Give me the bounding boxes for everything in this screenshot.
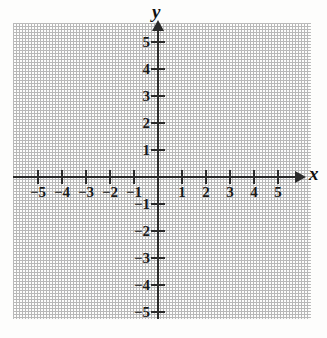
grid-line-horizontal bbox=[13, 131, 310, 132]
grid-line-vertical bbox=[67, 23, 68, 319]
y-axis-tick bbox=[151, 122, 165, 124]
y-axis-tick bbox=[151, 230, 165, 232]
grid-line-vertical bbox=[256, 23, 257, 319]
x-axis-tick bbox=[205, 170, 207, 184]
x-axis-tick-label: 4 bbox=[241, 185, 267, 200]
grid-line-horizontal bbox=[13, 239, 310, 240]
y-axis-tick-label: −1 bbox=[124, 197, 150, 212]
x-axis-tick-label: 2 bbox=[193, 185, 219, 200]
y-axis-tick-label: 4 bbox=[124, 62, 150, 77]
grid-line-vertical bbox=[175, 23, 176, 319]
y-axis-tick bbox=[151, 311, 165, 313]
y-axis-tick bbox=[151, 284, 165, 286]
x-axis-tick bbox=[229, 170, 231, 184]
x-axis-tick-label: −5 bbox=[25, 185, 51, 200]
y-axis-tick bbox=[151, 41, 165, 43]
y-axis-tick-label: 1 bbox=[124, 143, 150, 158]
y-axis-label: y bbox=[152, 2, 160, 21]
grid-line-horizontal bbox=[13, 266, 310, 267]
grid-line-vertical bbox=[40, 23, 41, 319]
x-axis-tick-label: −2 bbox=[97, 185, 123, 200]
x-axis-tick bbox=[61, 170, 63, 184]
x-axis-tick bbox=[253, 170, 255, 184]
grid-line-horizontal bbox=[13, 104, 310, 105]
y-axis-tick bbox=[151, 149, 165, 151]
y-axis-tick-label: −4 bbox=[124, 278, 150, 293]
grid-line-vertical bbox=[202, 23, 203, 319]
x-axis-tick bbox=[277, 170, 279, 184]
y-axis-tick-label: −2 bbox=[124, 224, 150, 239]
y-axis-tick bbox=[151, 68, 165, 70]
y-axis-tick-label: 2 bbox=[124, 116, 150, 131]
grid-line-horizontal bbox=[13, 293, 310, 294]
grid-line-horizontal bbox=[13, 158, 310, 159]
grid-line-horizontal bbox=[13, 50, 310, 51]
x-axis-tick bbox=[181, 170, 183, 184]
x-axis-tick-label: 3 bbox=[217, 185, 243, 200]
x-axis-label: x bbox=[309, 164, 319, 183]
x-axis-tick bbox=[85, 170, 87, 184]
x-axis-tick-label: −4 bbox=[49, 185, 75, 200]
x-axis-tick bbox=[109, 170, 111, 184]
x-axis-tick-label: −3 bbox=[73, 185, 99, 200]
x-axis-tick bbox=[37, 170, 39, 184]
y-axis-tick bbox=[151, 257, 165, 259]
x-axis-arrowhead-icon bbox=[295, 171, 306, 183]
grid-line-vertical bbox=[13, 23, 14, 319]
x-axis-tick-label: 1 bbox=[169, 185, 195, 200]
coordinate-plane-figure: −5−4−3−2−112345 54321−1−2−3−4−5 x y bbox=[0, 0, 327, 338]
y-axis-tick-label: −5 bbox=[124, 305, 150, 320]
y-axis-line bbox=[157, 30, 159, 319]
grid-line-vertical bbox=[283, 23, 284, 319]
y-axis-tick bbox=[151, 95, 165, 97]
y-axis-tick-label: 5 bbox=[124, 35, 150, 50]
y-axis-tick-label: −3 bbox=[124, 251, 150, 266]
x-axis-tick-label: 5 bbox=[265, 185, 291, 200]
grid-line-horizontal bbox=[13, 77, 310, 78]
grid-line-vertical bbox=[121, 23, 122, 319]
grid-line-horizontal bbox=[13, 212, 310, 213]
grid-line-vertical bbox=[94, 23, 95, 319]
y-axis-tick bbox=[151, 203, 165, 205]
y-axis-tick-label: 3 bbox=[124, 89, 150, 104]
x-axis-tick bbox=[133, 170, 135, 184]
